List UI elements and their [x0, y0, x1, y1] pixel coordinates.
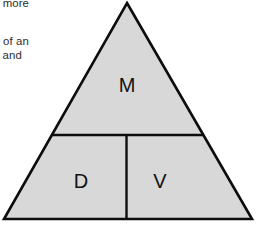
triangle-fill [4, 3, 252, 219]
triangle-diagram: M D V [0, 0, 257, 228]
triangle-diagram-svg [0, 0, 257, 228]
triangle-cell-label-bottom-left: D [74, 171, 88, 191]
triangle-cell-label-top: M [119, 75, 136, 95]
page-canvas: is more y of an , and M D V [0, 0, 257, 228]
triangle-cell-label-bottom-right: V [153, 171, 166, 191]
